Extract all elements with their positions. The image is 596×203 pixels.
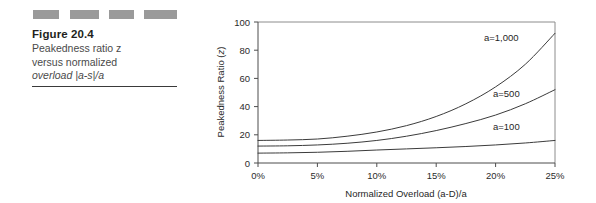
x-tick-label-15: 15% xyxy=(427,170,447,181)
figure-number-title: Figure 20.4 xyxy=(32,28,94,40)
y-axis-title-suffix: ) xyxy=(215,47,226,50)
series-label-a100: a=100 xyxy=(493,121,520,132)
caption-divider xyxy=(32,86,177,87)
y-tick-label-100: 100 xyxy=(234,17,250,28)
y-axis-ticks: 0 20 40 60 80 100 xyxy=(234,17,258,169)
series-label-a1000: a=1,000 xyxy=(484,32,519,43)
y-tick-label-80: 80 xyxy=(239,45,250,56)
caption-line-1: Peakedness ratio z xyxy=(32,42,121,54)
redaction-block xyxy=(109,10,134,19)
x-tick-label-10: 10% xyxy=(367,170,387,181)
y-axis-title-prefix: Peakedness Ratio ( xyxy=(215,54,226,138)
series-curve-a100 xyxy=(258,140,555,153)
x-axis-title: Normalized Overload (a-D)/a xyxy=(345,188,467,199)
chart-panel: 0 20 40 60 80 100 0% 5% 10% 15% 20% xyxy=(210,0,596,203)
x-tick-label-25: 25% xyxy=(545,170,565,181)
series-label-a500: a=500 xyxy=(493,88,520,99)
y-tick-label-60: 60 xyxy=(239,73,250,84)
x-tick-label-20: 20% xyxy=(486,170,506,181)
redaction-block-row xyxy=(33,10,178,19)
x-tick-label-5: 5% xyxy=(311,170,325,181)
figure-caption: Peakedness ratio z versus normalized ove… xyxy=(32,42,152,83)
caption-line-2: versus normalized xyxy=(32,56,117,68)
y-tick-label-20: 20 xyxy=(239,129,250,140)
redaction-block xyxy=(70,10,99,19)
redaction-block xyxy=(144,10,177,19)
x-tick-label-0: 0% xyxy=(251,170,265,181)
y-tick-label-40: 40 xyxy=(239,101,250,112)
redaction-block xyxy=(33,10,59,19)
y-axis-title: Peakedness Ratio (z) xyxy=(215,47,226,138)
caption-panel: Figure 20.4 Peakedness ratio z versus no… xyxy=(0,0,210,203)
caption-line-3: overload |a-s|/a xyxy=(32,69,104,81)
figure-container: Figure 20.4 Peakedness ratio z versus no… xyxy=(0,0,596,203)
line-chart: 0 20 40 60 80 100 0% 5% 10% 15% 20% xyxy=(210,0,596,203)
x-axis-ticks: 0% 5% 10% 15% 20% 25% xyxy=(251,163,565,181)
y-tick-label-0: 0 xyxy=(245,158,250,169)
